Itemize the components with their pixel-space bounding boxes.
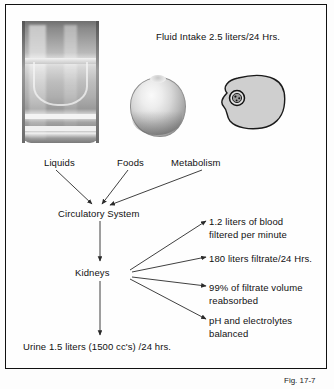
apple-image — [128, 71, 186, 137]
kidney-function-1: 1.2 liters of blood filtered per minute — [209, 216, 327, 241]
input-label-metabolism: Metabolism — [171, 157, 221, 169]
kidney-function-3: 99% of filtrate volume reabsorbed — [209, 282, 327, 307]
glass-of-water-image — [22, 21, 99, 143]
kidney-function-1-line2: filtered per minute — [209, 229, 327, 242]
input-label-foods: Foods — [117, 157, 144, 169]
kidney-function-1-line1: 1.2 liters of blood — [209, 216, 327, 229]
kidney-function-4-line1: pH and electrolytes — [209, 315, 327, 328]
fluid-intake-header: Fluid Intake 2.5 liters/24 Hrs. — [156, 31, 280, 43]
kidney-function-3-line2: reabsorbed — [209, 295, 327, 308]
kidney-function-2: 180 liters filtrate/24 Hrs. — [209, 253, 327, 266]
flow-node-kidneys: Kidneys — [75, 267, 110, 279]
kidney-function-3-line1: 99% of filtrate volume — [209, 282, 327, 295]
kidney-function-4-line2: balanced — [209, 328, 327, 341]
input-label-liquids: Liquids — [44, 157, 75, 169]
figure-container: Fluid Intake 2.5 liters/24 Hrs. Liquids … — [0, 0, 334, 389]
kidney-function-2-line1: 180 liters filtrate/24 Hrs. — [209, 253, 327, 266]
cell-icon — [218, 71, 288, 133]
flow-node-urine-output: Urine 1.5 liters (1500 cc's) /24 hrs. — [23, 341, 171, 353]
figure-frame: Fluid Intake 2.5 liters/24 Hrs. Liquids … — [5, 4, 327, 369]
cell-diagram-image — [218, 71, 288, 133]
flow-node-circulatory-system: Circulatory System — [58, 208, 140, 220]
figure-caption: Fig. 17-7 — [284, 376, 316, 385]
kidney-function-4: pH and electrolytes balanced — [209, 315, 327, 340]
